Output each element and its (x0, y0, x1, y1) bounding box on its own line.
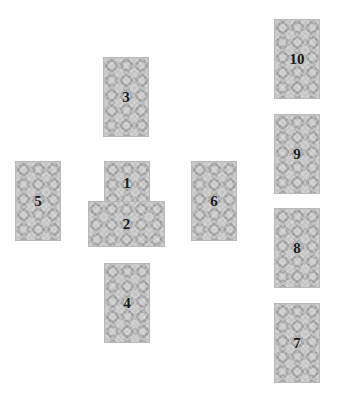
card-position-5[interactable]: 5 (15, 161, 61, 241)
card-position-6[interactable]: 6 (191, 161, 237, 241)
card-number-label: 4 (123, 296, 131, 311)
card-position-2-crossing[interactable]: 2 (88, 201, 165, 247)
card-number-label: 7 (293, 336, 301, 351)
card-position-7[interactable]: 7 (274, 303, 320, 383)
watermark-text (110, 4, 220, 18)
card-number-label: 10 (290, 52, 305, 67)
card-position-4[interactable]: 4 (104, 263, 150, 343)
card-position-8[interactable]: 8 (274, 208, 320, 288)
card-number-label: 9 (293, 147, 301, 162)
card-number-label: 2 (123, 217, 131, 232)
card-number-label: 6 (210, 194, 218, 209)
card-number-label: 5 (34, 194, 42, 209)
card-number-label: 3 (122, 90, 130, 105)
card-number-label: 8 (293, 241, 301, 256)
card-number-label: 1 (105, 176, 149, 191)
card-position-9[interactable]: 9 (274, 114, 320, 194)
card-position-10[interactable]: 10 (274, 19, 320, 99)
card-position-3[interactable]: 3 (103, 57, 149, 137)
tarot-spread-canvas: 3 10 9 5 1 2 6 8 4 7 (0, 0, 337, 404)
